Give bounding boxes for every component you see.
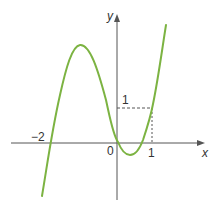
- cubic-graph: y x 0 −2 1 1: [0, 0, 221, 211]
- tick-label-x-neg2: −2: [31, 130, 45, 144]
- x-axis-label: x: [201, 146, 209, 160]
- y-axis-arrow-icon: [114, 14, 120, 22]
- cubic-curve: [42, 25, 166, 196]
- origin-label: 0: [107, 144, 114, 158]
- tick-label-y-1: 1: [122, 93, 129, 107]
- tick-label-x-1: 1: [148, 146, 155, 160]
- y-axis-label: y: [106, 9, 114, 23]
